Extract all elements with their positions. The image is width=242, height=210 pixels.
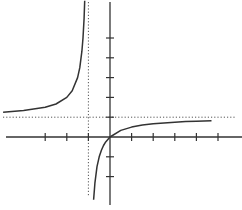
axes — [6, 2, 242, 205]
asymptotes — [3, 2, 236, 196]
curve-left-branch — [3, 1, 85, 113]
axis-ticks — [45, 38, 218, 177]
rational-function-plot — [0, 0, 242, 210]
curve-right-branch — [94, 121, 212, 200]
function-curves — [3, 1, 211, 200]
